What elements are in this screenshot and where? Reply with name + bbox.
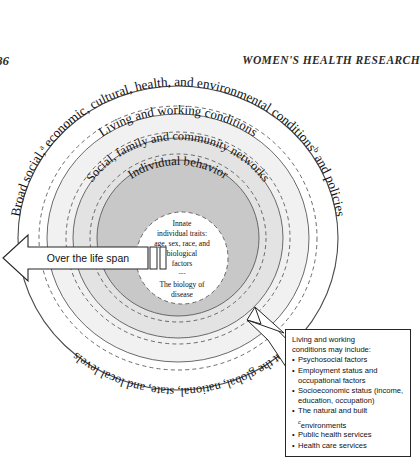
callout-item-text: Socioeconomic status (income, education,… <box>298 386 403 405</box>
callout-lead-line-1: Living and working <box>292 335 405 345</box>
callout-lead-line-2: conditions may include: <box>292 345 405 355</box>
list-item: Psychosocial factors <box>292 355 405 365</box>
list-item: Public health services <box>292 430 405 440</box>
svg-text:biological: biological <box>167 249 197 258</box>
svg-text:The biology of: The biology of <box>159 280 205 289</box>
callout-item-text: Psychosocial factors <box>298 355 367 364</box>
over-the-life-span-label: Over the life span <box>47 252 129 264</box>
callout-item-text: Health care services <box>298 441 367 450</box>
callout-item-text: Employment status and occupational facto… <box>298 366 377 385</box>
callout-box-living-and-working-conditions: Living and working conditions may includ… <box>285 329 411 457</box>
svg-text:---: --- <box>179 269 187 277</box>
list-item: Employment status and occupational facto… <box>292 366 405 386</box>
callout-item-text: Public health services <box>298 430 371 439</box>
svg-text:factors: factors <box>172 259 193 268</box>
callout-item-list: Psychosocial factors Employment status a… <box>292 355 405 450</box>
svg-text:disease: disease <box>171 290 194 299</box>
svg-text:individual traits:: individual traits: <box>157 229 207 238</box>
callout-item-text: The natural and built <box>298 406 367 415</box>
list-item: Health care services <box>292 441 405 451</box>
list-item: Socioeconomic status (income, education,… <box>292 386 405 406</box>
document-page: 86 WOMEN'S HEALTH RESEARCH <box>0 0 420 467</box>
callout-item-text-cont: environments <box>301 420 347 429</box>
svg-text:Innate: Innate <box>173 219 193 228</box>
list-item: The natural and built cenvironments <box>292 406 405 430</box>
